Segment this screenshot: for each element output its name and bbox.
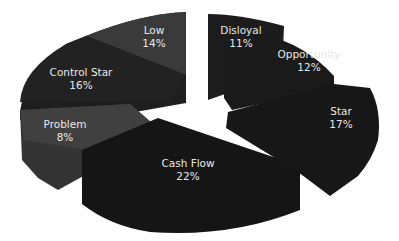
label-opportunity: Opportunity 12% [277, 48, 340, 74]
label-control-star-pct: 16% [50, 79, 113, 92]
label-control-star: Control Star 16% [50, 66, 113, 92]
label-disloyal-pct: 11% [220, 37, 261, 50]
label-opportunity-pct: 12% [277, 61, 340, 74]
label-disloyal-name: Disloyal [220, 24, 261, 37]
label-low-pct: 14% [142, 37, 165, 50]
label-star-name: Star [329, 105, 352, 118]
label-problem-name: Problem [44, 118, 87, 131]
label-problem: Problem 8% [44, 118, 87, 144]
label-cash-flow-name: Cash Flow [161, 157, 214, 170]
label-star-pct: 17% [329, 118, 352, 131]
label-problem-pct: 8% [44, 131, 87, 144]
label-star: Star 17% [329, 105, 352, 131]
label-disloyal: Disloyal 11% [220, 24, 261, 50]
label-low: Low 14% [142, 24, 165, 50]
label-low-name: Low [142, 24, 165, 37]
label-control-star-name: Control Star [50, 66, 113, 79]
label-opportunity-name: Opportunity [277, 48, 340, 61]
label-cash-flow: Cash Flow 22% [161, 157, 214, 183]
label-cash-flow-pct: 22% [161, 170, 214, 183]
